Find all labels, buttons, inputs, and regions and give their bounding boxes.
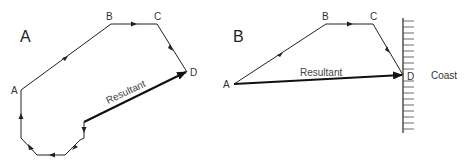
arrow-down-icon — [82, 127, 87, 133]
arrow-diag2-icon — [28, 144, 34, 150]
vector-diagram: A Resultant A B C D B Resultant — [0, 0, 466, 167]
arrow-bc-icon — [347, 22, 353, 27]
panel-a-title: A — [20, 28, 31, 45]
panel-a-lower-path — [21, 90, 84, 155]
arrow-ab-icon — [62, 56, 68, 61]
panel-a-path-abcd — [21, 24, 187, 90]
arrow-left-icon — [49, 153, 55, 158]
panel-a-resultant — [84, 72, 186, 122]
arrow-bc-icon — [131, 22, 137, 27]
panel-a: A Resultant A B C D — [11, 11, 197, 158]
panel-a-point-b: B — [106, 11, 113, 22]
panel-b-point-c: C — [370, 11, 377, 22]
panel-b-resultant-label: Resultant — [300, 67, 342, 78]
panel-b-point-a: A — [223, 79, 230, 90]
panel-b-point-b: B — [322, 11, 329, 22]
panel-b: B Resultant — [223, 11, 457, 133]
coast-label: Coast — [431, 70, 457, 81]
arrow-ab-icon — [277, 53, 283, 58]
panel-a-point-a: A — [11, 85, 18, 96]
panel-b-point-d: D — [407, 71, 414, 82]
panel-b-title: B — [233, 28, 244, 45]
arrow-cd-icon — [385, 46, 390, 53]
panel-a-point-c: C — [154, 11, 161, 22]
panel-a-point-d: D — [190, 67, 197, 78]
arrow-up-icon — [19, 113, 24, 119]
